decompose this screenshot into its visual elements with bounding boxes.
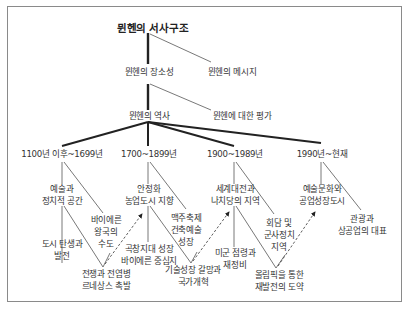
node-world-war: 세계대전과 나치당의 지역 xyxy=(211,183,260,207)
node-bavaria-capital: 바이에른 왕국의 수도 xyxy=(91,214,122,250)
period-1900-1989: 1900~1989년 xyxy=(207,148,263,160)
node-stabilization: 안정화 농업도시 지향 xyxy=(125,183,174,207)
node-placeness: 뮌헨의 장소성 xyxy=(125,66,174,78)
period-1100-1699: 1100년 이후~1699년 xyxy=(21,148,102,160)
node-evaluation: 뮌헨에 대한 평가 xyxy=(213,110,272,122)
node-message: 뮌헨의 메시지 xyxy=(208,66,257,78)
node-art-political-space: 예술과 정치적 공간 xyxy=(42,183,83,207)
diagram-title: 뮌헨의 서사구조 xyxy=(117,22,188,34)
node-olympics: 올림픽을 통한 재발전의 도약 xyxy=(255,269,304,293)
node-conference: 회담 및 군사정치 지역 xyxy=(264,217,295,253)
node-us-occupation: 미군 점령과 재정비 xyxy=(215,247,256,271)
node-tourism: 관광과 상공업의 대표 xyxy=(338,213,387,237)
node-history: 뮌헨의 역사 xyxy=(129,110,170,122)
node-city-birth: 도시 탄생과 발전 xyxy=(42,238,83,262)
node-war-plague: 전쟁과 전염병 르네상스 촉발 xyxy=(82,268,131,292)
period-1990-present: 1990년~현재 xyxy=(297,148,348,160)
node-art-culture: 예술문화와 공업성장도시 xyxy=(299,183,345,207)
node-tech-reform: 기술성장 갈망과 국가개혁 xyxy=(165,264,221,288)
period-1700-1899: 1700~1899년 xyxy=(121,148,177,160)
